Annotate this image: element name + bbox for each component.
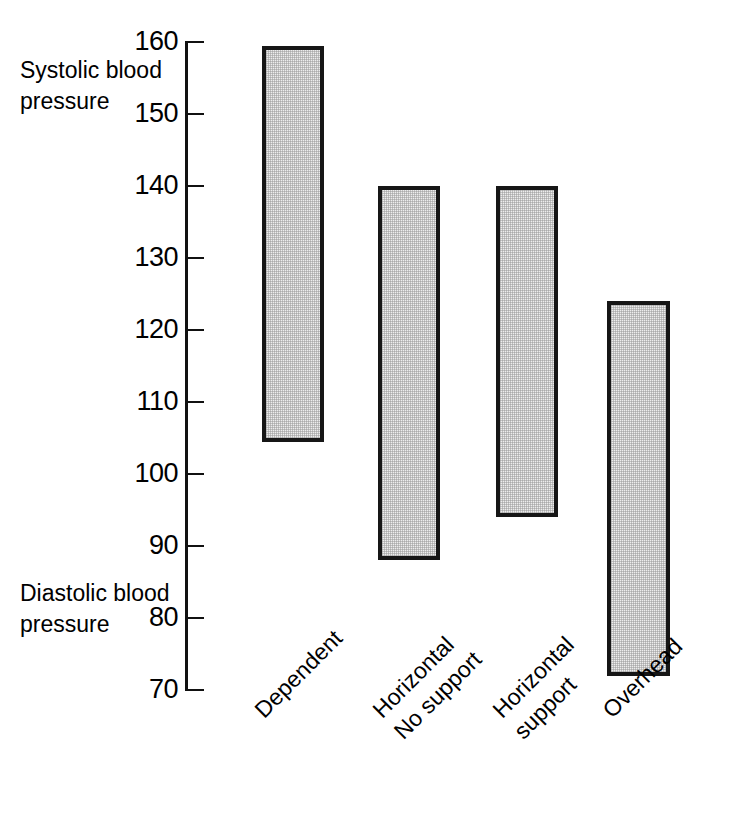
category-label: Dependent [248,623,349,724]
range-bar [496,186,558,517]
y-tick-mark-80 [185,617,204,619]
y-tick-mark-100 [185,473,204,475]
y-tick-mark-150 [185,113,204,115]
y-tick-label-160: 160 [122,28,178,55]
systolic-caption-line-1: Systolic [20,57,99,83]
y-tick-label-110: 110 [122,388,178,415]
y-tick-label-70: 70 [122,676,178,703]
y-tick-160: 160 [0,28,178,55]
category-label-line-1: Dependent [248,623,349,724]
bp-range-chart: Systolic blood pressure Diastolic blood … [0,0,734,833]
y-axis-spine [185,42,188,690]
y-tick-100: 100 [0,460,178,487]
y-tick-120: 120 [0,316,178,343]
y-tick-150: 150 [0,100,178,127]
y-tick-label-120: 120 [122,316,178,343]
y-tick-mark-160 [185,41,204,43]
y-tick-label-100: 100 [122,460,178,487]
y-tick-label-150: 150 [122,100,178,127]
y-tick-mark-130 [185,257,204,259]
y-tick-90: 90 [0,532,178,559]
category-label: Horizontalsupport [486,630,602,746]
y-tick-80: 80 [0,604,178,631]
y-tick-label-80: 80 [122,604,178,631]
y-tick-130: 130 [0,244,178,271]
y-tick-label-140: 140 [122,172,178,199]
y-tick-mark-110 [185,401,204,403]
y-tick-mark-90 [185,545,204,547]
range-bar [262,46,324,442]
y-tick-mark-70 [185,689,204,691]
category-label: HorizontalNo support [366,623,488,745]
y-tick-70: 70 [0,676,178,703]
y-tick-label-90: 90 [122,532,178,559]
y-tick-mark-120 [185,329,204,331]
range-bar [378,186,440,560]
y-tick-110: 110 [0,388,178,415]
y-tick-label-130: 130 [122,244,178,271]
systolic-caption-line-2: blood [106,57,162,83]
y-tick-140: 140 [0,172,178,199]
y-tick-mark-140 [185,185,204,187]
range-bar [607,301,670,675]
diastolic-caption-line-1: Diastolic [20,580,107,606]
